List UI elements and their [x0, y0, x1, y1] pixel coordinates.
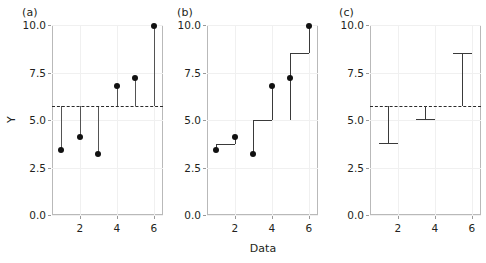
- x-axis-tick-label: 2: [394, 222, 401, 234]
- gridline-horizontal: [370, 215, 481, 216]
- step-segment: [216, 144, 235, 145]
- y-axis-tick-label: 2.5: [18, 162, 46, 174]
- data-point: [306, 23, 312, 29]
- x-axis-tick-mark: [472, 216, 473, 219]
- x-axis-tick-label: 2: [76, 222, 83, 234]
- data-point: [250, 151, 256, 157]
- gridline-horizontal: [207, 215, 318, 216]
- y-axis-tick-label: 7.5: [336, 67, 364, 79]
- figure-container: (a) Y 0.02.55.07.510.0 246 (b) 0.02.55.0…: [0, 0, 486, 263]
- data-point: [95, 151, 101, 157]
- y-axis-tick-label: 10.0: [18, 19, 46, 31]
- group-level-cap: [416, 119, 435, 120]
- panel-b: (b) 0.02.55.07.510.0 246 Data: [163, 0, 325, 263]
- y-axis-tick-label: 5.0: [336, 114, 364, 126]
- gridline-vertical: [435, 25, 436, 215]
- group-effect-line: [388, 106, 389, 143]
- y-axis-tick-mark: [203, 25, 206, 26]
- y-axis-tick-label: 2.5: [173, 162, 201, 174]
- gridline-vertical: [235, 25, 236, 215]
- gridline-horizontal: [370, 25, 481, 26]
- y-axis-tick-mark: [48, 73, 51, 74]
- x-axis-tick-mark: [435, 216, 436, 219]
- y-axis-tick-label: 7.5: [18, 67, 46, 79]
- data-point: [213, 147, 219, 153]
- data-point: [114, 83, 120, 89]
- y-axis-tick-label: 5.0: [18, 114, 46, 126]
- gridline-horizontal: [52, 168, 163, 169]
- data-point: [151, 23, 157, 29]
- y-axis-tick-mark: [366, 25, 369, 26]
- gridline-horizontal: [52, 215, 163, 216]
- group-level-cap: [379, 143, 398, 144]
- panel-b-label: (b): [177, 6, 193, 19]
- y-axis-tick-mark: [48, 215, 51, 216]
- gridline-horizontal: [370, 168, 481, 169]
- y-axis-tick-label: 10.0: [336, 19, 364, 31]
- data-point: [287, 75, 293, 81]
- group-effect-line: [425, 106, 426, 119]
- gridline-horizontal: [52, 73, 163, 74]
- plot-area-a: [52, 25, 163, 215]
- y-axis-tick-label: 0.0: [18, 209, 46, 221]
- y-axis-tick-mark: [203, 215, 206, 216]
- x-axis-tick-mark: [80, 216, 81, 219]
- group-effect-line: [462, 53, 463, 106]
- gridline-horizontal: [52, 25, 163, 26]
- y-axis-tick-mark: [203, 168, 206, 169]
- gridline-horizontal: [207, 168, 318, 169]
- plot-area-c: [370, 25, 481, 215]
- data-point: [77, 134, 83, 140]
- x-axis-tick-label: 4: [431, 222, 438, 234]
- y-axis-tick-mark: [366, 73, 369, 74]
- y-axis-tick-mark: [48, 25, 51, 26]
- deviation-stem: [154, 26, 155, 106]
- gridline-vertical: [398, 25, 399, 215]
- deviation-stem: [80, 106, 81, 137]
- y-axis-tick-label: 7.5: [173, 67, 201, 79]
- step-connector: [253, 120, 254, 154]
- y-axis-tick-mark: [203, 120, 206, 121]
- x-axis-tick-label: 6: [305, 222, 312, 234]
- x-axis-tick-label: 4: [268, 222, 275, 234]
- data-point: [232, 134, 238, 140]
- x-axis-tick-mark: [117, 216, 118, 219]
- x-axis-tick-label: 2: [231, 222, 238, 234]
- y-axis-tick-label: 5.0: [173, 114, 201, 126]
- gridline-vertical: [117, 25, 118, 215]
- y-axis-tick-label: 10.0: [173, 19, 201, 31]
- data-point: [58, 147, 64, 153]
- data-point: [132, 75, 138, 81]
- x-axis-tick-mark: [309, 216, 310, 219]
- x-axis-tick-mark: [154, 216, 155, 219]
- step-segment: [253, 120, 272, 121]
- step-connector: [309, 26, 310, 53]
- gridline-vertical: [472, 25, 473, 215]
- gridline-horizontal: [52, 120, 163, 121]
- y-axis-tick-mark: [203, 73, 206, 74]
- data-point: [269, 83, 275, 89]
- x-axis-tick-label: 6: [150, 222, 157, 234]
- gridline-horizontal: [207, 73, 318, 74]
- panel-a: (a) Y 0.02.55.07.510.0 246: [0, 0, 168, 263]
- step-segment: [290, 53, 309, 54]
- y-axis-title: Y: [5, 108, 18, 132]
- y-axis-tick-mark: [48, 168, 51, 169]
- y-axis-tick-label: 0.0: [173, 209, 201, 221]
- x-axis-tick-mark: [235, 216, 236, 219]
- deviation-stem: [98, 106, 99, 154]
- deviation-stem: [135, 78, 136, 106]
- step-connector: [272, 86, 273, 120]
- x-axis-tick-mark: [272, 216, 273, 219]
- panel-c: (c) 0.02.55.07.510.0 246: [325, 0, 486, 263]
- grand-mean-line: [52, 106, 163, 107]
- y-axis-tick-label: 0.0: [336, 209, 364, 221]
- x-axis-title: Data: [250, 242, 276, 255]
- gridline-horizontal: [370, 73, 481, 74]
- y-axis-tick-mark: [366, 215, 369, 216]
- gridline-vertical: [309, 25, 310, 215]
- y-axis-tick-mark: [366, 168, 369, 169]
- gridline-vertical: [272, 25, 273, 215]
- deviation-stem: [61, 106, 62, 151]
- plot-area-b: [207, 25, 318, 215]
